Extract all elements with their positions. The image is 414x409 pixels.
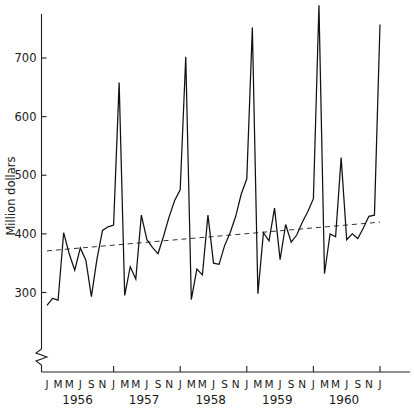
x-tick-label: J [44, 378, 48, 390]
x-tick-label: S [88, 378, 95, 390]
x-tick-label: J [78, 378, 82, 390]
year-label: 1959 [262, 393, 293, 407]
y-tick-label: 700 [15, 51, 37, 65]
x-tick-label: M [253, 378, 262, 390]
x-tick-label: M [65, 378, 74, 390]
x-tick-label: M [131, 378, 140, 390]
x-tick-label: J [377, 378, 381, 390]
x-tick-label: N [99, 378, 107, 390]
x-tick-label: J [144, 378, 148, 390]
y-tick-label: 600 [15, 110, 37, 124]
data-series-line [47, 5, 380, 305]
x-tick-label: M [54, 378, 63, 390]
x-tick-label: S [354, 378, 361, 390]
x-tick-label: M [187, 378, 196, 390]
x-tick-label: M [120, 378, 129, 390]
year-label: 1960 [329, 393, 360, 407]
x-tick-label: N [298, 378, 306, 390]
x-tick-label: S [221, 378, 228, 390]
x-tick-label: J [211, 378, 215, 390]
x-tick-label: S [155, 378, 162, 390]
year-label: 1957 [129, 393, 160, 407]
y-axis-break-zigzag [36, 349, 47, 372]
x-tick-label: N [365, 378, 373, 390]
x-tick-label: J [178, 378, 182, 390]
x-tick-label: S [288, 378, 295, 390]
year-label: 1958 [195, 393, 226, 407]
x-year-tick-marks [114, 366, 380, 372]
x-tick-label: M [264, 378, 273, 390]
x-tick-label: J [278, 378, 282, 390]
line-chart: 300400500600700 JMMJSNJMMJSNJMMJSNJMMJSN… [0, 0, 414, 409]
x-tick-label: J [111, 378, 115, 390]
x-tick-label: M [198, 378, 207, 390]
x-tick-label: J [244, 378, 248, 390]
y-axis-group [36, 14, 47, 372]
y-tick-label: 300 [15, 286, 37, 300]
x-tick-label: M [320, 378, 329, 390]
chart-container: 300400500600700 JMMJSNJMMJSNJMMJSNJMMJSN… [0, 0, 414, 409]
year-label: 1956 [62, 393, 93, 407]
year-labels: 19561957195819591960 [62, 393, 359, 407]
y-tick-marks [42, 58, 47, 293]
x-tick-label: M [331, 378, 340, 390]
y-axis-label: Million dollars [4, 156, 18, 235]
x-tick-label: N [165, 378, 173, 390]
x-tick-label: N [232, 378, 240, 390]
x-tick-label: J [311, 378, 315, 390]
x-tick-label: J [344, 378, 348, 390]
x-tick-labels: JMMJSNJMMJSNJMMJSNJMMJSNJMMJSNJ [44, 378, 381, 390]
